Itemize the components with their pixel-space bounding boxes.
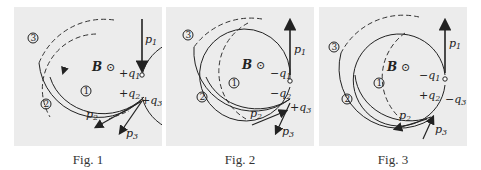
figure-2-caption: Fig. 2 xyxy=(166,152,314,168)
p2-label: p2 xyxy=(399,109,411,123)
field-label: B xyxy=(241,58,252,72)
figure-2-panel: p1 p2 p3 B ⊙ −q1 −q2 +q3 1 2 3 xyxy=(166,7,314,146)
field-out-icon: ⊙ xyxy=(106,61,115,74)
p3-label: p3 xyxy=(126,127,138,141)
p3-label: p3 xyxy=(435,123,447,137)
charge-q2: +q2 xyxy=(119,87,140,101)
field-label: B xyxy=(91,60,102,74)
charge-q1: +q1 xyxy=(119,67,140,81)
charge-q3: −q3 xyxy=(445,93,466,107)
charge-q2: +q2 xyxy=(419,89,440,103)
track-1-label: 1 xyxy=(84,86,90,96)
field-out-icon: ⊙ xyxy=(401,61,410,74)
charge-q3: +q3 xyxy=(290,101,311,115)
figure-2-diagram: p1 p2 p3 B ⊙ −q1 −q2 +q3 1 2 3 xyxy=(166,7,314,146)
figure-1-caption: Fig. 1 xyxy=(14,152,162,168)
p2-label: p2 xyxy=(86,108,98,122)
track-2-label: 2 xyxy=(345,94,351,104)
p1-label: p1 xyxy=(449,37,461,51)
charge-q2: −q2 xyxy=(270,87,291,101)
track-1-label: 1 xyxy=(232,78,238,88)
figure-3-caption: Fig. 3 xyxy=(319,152,467,168)
p1-label: p1 xyxy=(294,43,306,57)
track-3-label: 3 xyxy=(186,30,192,40)
field-label: B xyxy=(386,60,397,74)
track-2-label: 2 xyxy=(44,99,50,109)
track-1-label: 1 xyxy=(377,78,383,88)
figure-1-panel: p1 p2 p3 B ⊙ +q1 +q2 +q3 1 2 3 xyxy=(14,7,162,146)
figure-3-panel: p1 p2 p3 B ⊙ −q1 +q2 −q3 1 2 3 xyxy=(319,7,467,146)
track-3-label: 3 xyxy=(31,33,37,43)
p1-label: p1 xyxy=(145,33,157,47)
charge-q1: −q1 xyxy=(419,69,440,83)
figure-1-diagram: p1 p2 p3 B ⊙ +q1 +q2 +q3 1 2 3 xyxy=(14,7,162,146)
charge-q1: −q1 xyxy=(270,67,291,81)
field-out-icon: ⊙ xyxy=(256,59,265,72)
track-3-label: 3 xyxy=(332,42,338,52)
figure-3-diagram: p1 p2 p3 B ⊙ −q1 +q2 −q3 1 2 3 xyxy=(319,7,468,146)
charge-q3: +q3 xyxy=(141,94,162,108)
p3-label: p3 xyxy=(282,125,294,139)
track-2-label: 2 xyxy=(200,92,206,102)
